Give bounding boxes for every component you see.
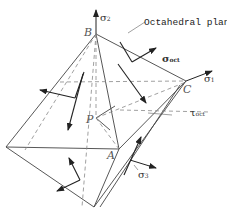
vertex-b-label: B xyxy=(84,27,92,38)
vertex-c-label: C xyxy=(183,84,191,95)
octahedral-plane-label: Octahedral plane xyxy=(144,18,227,28)
sigma1-label: σ1 xyxy=(204,74,215,84)
sigma2-label: σ2 xyxy=(100,13,111,23)
vertex-a-label: A xyxy=(107,150,115,161)
octahedron-diagram: Octahedral plane B C A P σ2 σ1 σ3 σoct τ… xyxy=(0,0,227,214)
tau-oct-label: τoct xyxy=(190,108,205,118)
sigma-oct-label: σoct xyxy=(162,54,180,64)
sigma3-label: σ3 xyxy=(138,170,149,180)
vertex-p-label: P xyxy=(86,114,93,125)
